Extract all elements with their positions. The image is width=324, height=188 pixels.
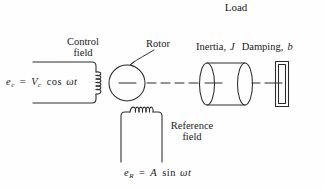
control-field-label: Control field <box>52 36 114 59</box>
schematic-drawing <box>0 0 324 188</box>
reference-field-label-line1: Reference <box>171 120 214 131</box>
reference-field-label-line2: field <box>182 131 201 142</box>
reference-eq-equals: = <box>139 167 145 178</box>
reference-eq-argument: ωt <box>180 167 191 178</box>
inertia-damping-label: Inertia,JDamping,b <box>196 41 293 52</box>
control-field-top-wire <box>33 62 96 72</box>
rotor-leader-arrow <box>131 50 155 67</box>
control-field-label-line2: field <box>73 47 92 58</box>
control-eq-equals: = <box>20 76 26 87</box>
control-field-bottom-wire <box>33 94 96 103</box>
load-block-inner <box>279 65 286 104</box>
load-label: Load <box>206 2 266 14</box>
rotor-label: Rotor <box>146 38 170 49</box>
reference-field-right-wire <box>153 112 162 162</box>
reference-eq-amplitude: A <box>150 167 157 178</box>
cylinder-right-face <box>238 63 253 105</box>
inertia-text: Inertia, <box>196 41 226 52</box>
reference-eq-function: sin <box>162 167 176 178</box>
reference-eq-lhs-subscript: R <box>129 172 134 179</box>
reference-field-left-wire <box>121 112 130 162</box>
damping-symbol: b <box>287 41 292 52</box>
inertia-cylinder <box>200 63 253 105</box>
control-eq-argument: ωt <box>66 76 77 87</box>
control-field-coil <box>96 72 101 94</box>
reference-field-equation: eR=Asinωt <box>124 167 191 179</box>
reference-field-circuit <box>121 107 162 162</box>
load-block-outer <box>276 62 289 107</box>
control-field-label-line1: Control <box>67 36 99 47</box>
damping-text: Damping, <box>242 41 284 52</box>
control-field-equation: ec=Vccosωt <box>6 76 78 88</box>
reference-field-coil <box>130 107 153 112</box>
cylinder-left-face <box>200 63 215 105</box>
inertia-symbol: J <box>230 41 235 52</box>
control-eq-lhs-subscript: c <box>11 81 15 88</box>
reference-field-label: Reference field <box>163 120 221 143</box>
control-eq-amplitude-subscript: c <box>38 81 42 88</box>
control-eq-function: cos <box>47 76 63 87</box>
load-block <box>276 62 289 107</box>
servomotor-schematic-figure: Load Control field Rotor Inertia,JDampin… <box>0 0 324 188</box>
